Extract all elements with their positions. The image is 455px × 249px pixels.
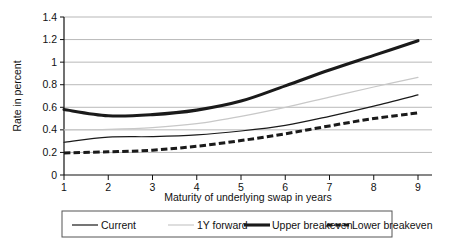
x-tick-label: 3 xyxy=(150,181,156,193)
series-line xyxy=(64,41,418,116)
y-axis-title: Rate in percent xyxy=(11,60,23,131)
y-tick-label: 0.8 xyxy=(42,78,57,90)
legend-label: Lower breakeven xyxy=(352,219,433,231)
x-tick-label: 2 xyxy=(105,181,111,193)
y-tick-label: 1.4 xyxy=(42,11,57,23)
x-tick-label: 9 xyxy=(415,181,421,193)
y-tick-labels: 00.20.40.60.811.21.4 xyxy=(42,11,57,181)
x-tick-marks xyxy=(64,175,418,180)
series-line xyxy=(64,113,418,153)
x-tick-label: 1 xyxy=(61,181,67,193)
line-chart-svg: Rate in percent 00.20.40.60.811.21.4 123… xyxy=(0,0,455,249)
legend-items: Current1Y forwardUpper breakevenLower br… xyxy=(72,219,433,231)
y-tick-label: 0.6 xyxy=(42,101,57,113)
y-tick-label: 0.4 xyxy=(42,123,57,135)
y-tick-label: 1.2 xyxy=(42,33,57,45)
chart-figure: Rate in percent 00.20.40.60.811.21.4 123… xyxy=(0,0,455,249)
legend-label: 1Y forward xyxy=(197,219,248,231)
x-tick-label: 8 xyxy=(371,181,377,193)
axis-lines xyxy=(64,17,432,175)
series-line xyxy=(64,77,418,129)
data-series-lines xyxy=(64,41,418,153)
chart-legend: Current1Y forwardUpper breakevenLower br… xyxy=(62,211,433,237)
x-axis-title: Maturity of underlying swap in years xyxy=(164,191,332,203)
y-tick-label: 0.2 xyxy=(42,146,57,158)
legend-label: Current xyxy=(101,219,136,231)
y-tick-label: 1 xyxy=(51,56,57,68)
gridlines xyxy=(64,17,432,152)
y-tick-label: 0 xyxy=(51,169,57,181)
